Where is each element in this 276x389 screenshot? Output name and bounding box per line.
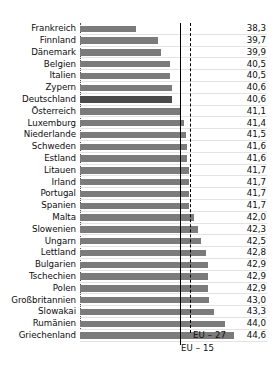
- bar-row: Dänemark39,9: [0, 47, 276, 59]
- category-label: Tschechien: [0, 271, 76, 282]
- value-label: 39,9: [247, 47, 266, 58]
- bar-row: Portugal41,7: [0, 188, 276, 200]
- category-label: Niederlande: [0, 129, 76, 140]
- bar: [80, 191, 189, 197]
- value-label: 41,7: [247, 165, 266, 176]
- bar-row: Italien40,5: [0, 70, 276, 82]
- category-label: Österreich: [0, 106, 76, 117]
- bar: [80, 309, 214, 315]
- value-label: 41,6: [247, 141, 266, 152]
- bar-row: Finnland39,7: [0, 35, 276, 47]
- category-label: Zypern: [0, 82, 76, 93]
- value-label: 44,6: [247, 330, 266, 341]
- bar: [80, 132, 186, 138]
- bar: [80, 214, 194, 220]
- category-label: Slowenien: [0, 224, 76, 235]
- value-label: 40,5: [247, 59, 266, 70]
- reference-line-eu27: [190, 23, 191, 333]
- bar-row: Irland41,7: [0, 176, 276, 188]
- category-label: Belgien: [0, 59, 76, 70]
- bar: [80, 120, 184, 126]
- bar: [80, 238, 201, 244]
- bar: [80, 179, 189, 185]
- category-label: Portugal: [0, 188, 76, 199]
- bar-highlighted: [80, 96, 172, 102]
- bar: [80, 203, 189, 209]
- category-label: Finnland: [0, 35, 76, 46]
- value-label: 39,7: [247, 35, 266, 46]
- value-label: 41,7: [247, 188, 266, 199]
- value-label: 42,9: [247, 271, 266, 282]
- bar-row: Bulgarien42,9: [0, 259, 276, 271]
- category-label: Rumänien: [0, 318, 76, 329]
- value-label: 41,5: [247, 129, 266, 140]
- value-label: 42,5: [247, 236, 266, 247]
- bar: [80, 108, 180, 114]
- category-label: Lettland: [0, 247, 76, 258]
- value-label: 40,6: [247, 94, 266, 105]
- value-label: 42,9: [247, 283, 266, 294]
- bar-row: Griechenland44,6: [0, 330, 276, 342]
- row-gridline: [80, 341, 267, 342]
- bar-row: Deutschland40,6: [0, 94, 276, 106]
- value-label: 42,0: [247, 212, 266, 223]
- bar-row: Luxemburg41,4: [0, 117, 276, 129]
- category-label: Deutschland: [0, 94, 76, 105]
- value-label: 43,3: [247, 306, 266, 317]
- bar-row: Frankreich38,3: [0, 23, 276, 35]
- bar-row: Tschechien42,9: [0, 271, 276, 283]
- category-label: Luxemburg: [0, 118, 76, 129]
- category-label: Großbritannien: [0, 295, 76, 306]
- bar-row: Estland41,6: [0, 153, 276, 165]
- bar-row: Malta42,0: [0, 212, 276, 224]
- category-label: Dänemark: [0, 47, 76, 58]
- value-label: 41,6: [247, 153, 266, 164]
- category-label: Schweden: [0, 141, 76, 152]
- category-label: Estland: [0, 153, 76, 164]
- bar-row: Belgien40,5: [0, 58, 276, 70]
- bar: [80, 262, 208, 268]
- value-label: 42,3: [247, 224, 266, 235]
- bar-row: Polen42,9: [0, 283, 276, 295]
- category-label: Bulgarien: [0, 259, 76, 270]
- category-label: Griechenland: [0, 330, 76, 341]
- value-label: 40,5: [247, 70, 266, 81]
- category-label: Slowakai: [0, 306, 76, 317]
- value-label: 41,1: [247, 106, 266, 117]
- value-label: 42,8: [247, 247, 266, 258]
- bar: [80, 273, 208, 279]
- bar: [80, 144, 187, 150]
- value-label: 38,3: [247, 23, 266, 34]
- value-label: 41,4: [247, 118, 266, 129]
- bar: [80, 321, 225, 327]
- value-label: 41,7: [247, 200, 266, 211]
- category-label: Polen: [0, 283, 76, 294]
- category-label: Ungarn: [0, 236, 76, 247]
- bar-row: Rumänien44,0: [0, 318, 276, 330]
- value-label: 42,9: [247, 259, 266, 270]
- bar-row: Litauen41,7: [0, 165, 276, 177]
- bar-row: Großbritannien43,0: [0, 294, 276, 306]
- category-label: Malta: [0, 212, 76, 223]
- bar-row: Zypern40,6: [0, 82, 276, 94]
- bar: [80, 37, 158, 43]
- bar: [80, 26, 136, 32]
- reference-label-eu15: EU – 15: [181, 343, 214, 353]
- bar-row: Niederlande41,5: [0, 129, 276, 141]
- bar: [80, 61, 170, 67]
- value-label: 41,7: [247, 177, 266, 188]
- bar: [80, 155, 187, 161]
- bar-row: Lettland42,8: [0, 247, 276, 259]
- value-label: 43,0: [247, 295, 266, 306]
- category-label: Frankreich: [0, 23, 76, 34]
- bar: [80, 49, 161, 55]
- bar: [80, 250, 206, 256]
- value-label: 40,6: [247, 82, 266, 93]
- category-label: Litauen: [0, 165, 76, 176]
- bar-row: Schweden41,6: [0, 141, 276, 153]
- reference-label-eu27: EU – 27: [193, 330, 226, 340]
- bar: [80, 85, 172, 91]
- category-label: Irland: [0, 177, 76, 188]
- bar-row: Ungarn42,5: [0, 235, 276, 247]
- bar: [80, 285, 208, 291]
